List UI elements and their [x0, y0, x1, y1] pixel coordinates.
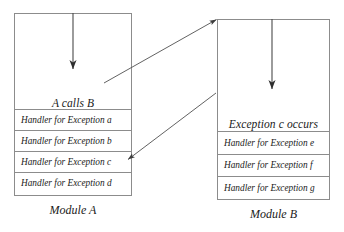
handler-row: Handler for Exception f [218, 154, 329, 177]
module-a-caption: Module A [14, 203, 132, 218]
module-a-body: A calls B [15, 14, 131, 111]
module-b-caption: Module B [217, 207, 330, 222]
handler-row: Handler for Exception d [15, 172, 131, 193]
module-a-box: A calls B Handler for Exception a Handle… [14, 13, 132, 196]
module-a-handler-list: Handler for Exception a Handler for Exce… [15, 109, 131, 195]
handler-row: Handler for Exception g [218, 176, 329, 199]
module-b-box: Exception c occurs Handler for Exception… [217, 19, 330, 200]
handler-row: Handler for Exception b [15, 130, 131, 151]
module-b-body: Exception c occurs [218, 20, 329, 133]
diagram-canvas: A calls B Handler for Exception a Handle… [0, 0, 344, 232]
exception-propagation-arrow-b-to-a [128, 93, 216, 160]
handler-row: Handler for Exception e [218, 131, 329, 154]
module-a-body-label: A calls B [15, 97, 131, 109]
handler-row: Handler for Exception a [15, 109, 131, 130]
handler-row: Handler for Exception c [15, 151, 131, 172]
module-b-body-label: Exception c occurs [218, 118, 329, 130]
module-b-handler-list: Handler for Exception e Handler for Exce… [218, 131, 329, 199]
